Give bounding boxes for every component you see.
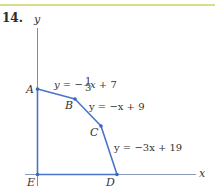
vertex-d bbox=[115, 173, 119, 177]
vertex-b bbox=[73, 97, 77, 101]
equation-ab: y = − 1 3 x + 7 bbox=[53, 75, 117, 93]
vertex-a bbox=[36, 87, 40, 91]
point-label-a: A bbox=[25, 83, 34, 96]
equation-cd: y = −3x + 19 bbox=[113, 142, 182, 153]
point-label-c: C bbox=[90, 126, 99, 139]
y-axis-label: y bbox=[33, 13, 41, 26]
svg-text:y = −: y = − bbox=[53, 79, 83, 90]
vertex-c bbox=[99, 124, 103, 128]
vertex-e bbox=[36, 173, 40, 177]
feasible-region-diagram: y x A B C D E y = − 1 3 x + 7 y = −x + 9… bbox=[0, 0, 215, 189]
point-label-d: D bbox=[105, 176, 115, 189]
point-label-e: E bbox=[26, 176, 35, 189]
point-label-b: B bbox=[64, 99, 73, 112]
x-axis-label: x bbox=[199, 167, 206, 180]
equation-bc: y = −x + 9 bbox=[88, 101, 145, 112]
svg-text:x + 7: x + 7 bbox=[90, 79, 117, 90]
